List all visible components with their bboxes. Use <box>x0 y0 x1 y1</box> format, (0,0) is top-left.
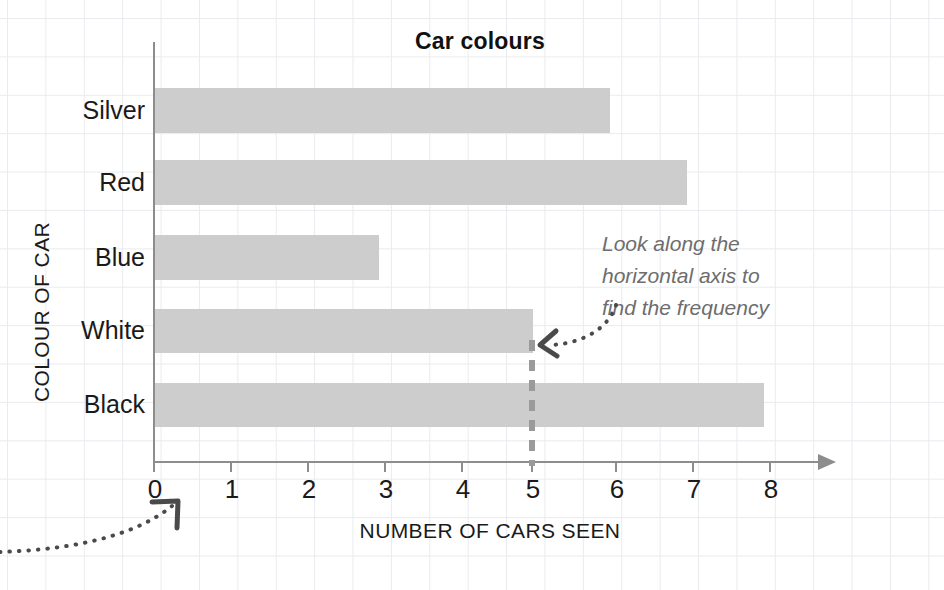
category-label-white: White <box>5 316 145 345</box>
bar-blue <box>155 235 379 280</box>
x-tick-label: 4 <box>443 474 483 505</box>
annotation-line-1: Look along the <box>602 228 932 260</box>
x-tick-label: 7 <box>674 474 714 505</box>
y-axis-title: COLOUR OF CAR <box>30 212 54 412</box>
x-tick-mark <box>769 461 771 472</box>
frequency-annotation: Look along the horizontal axis to find t… <box>602 228 932 324</box>
category-label-silver: Silver <box>5 96 145 125</box>
category-label-black: Black <box>5 390 145 419</box>
x-axis-line <box>153 461 826 463</box>
x-tick-mark <box>692 461 694 472</box>
category-label-red: Red <box>5 168 145 197</box>
x-tick-mark <box>307 461 309 472</box>
category-label-blue: Blue <box>5 243 145 272</box>
x-tick-mark <box>384 461 386 472</box>
x-tick-label: 6 <box>597 474 637 505</box>
x-axis-arrow-icon <box>818 454 836 470</box>
x-tick-label: 8 <box>751 474 791 505</box>
bar-silver <box>155 88 610 133</box>
x-tick-mark <box>153 461 155 472</box>
chart-canvas: Car colours 0 1 2 3 4 5 6 7 8 Silver Red… <box>0 0 944 590</box>
annotation-line-2: horizontal axis to <box>602 260 932 292</box>
x-tick-label: 1 <box>212 474 252 505</box>
bar-red <box>155 160 687 205</box>
x-tick-mark <box>615 461 617 472</box>
x-tick-label: 2 <box>289 474 329 505</box>
frequency-arrow-icon <box>520 300 630 370</box>
origin-arrow-icon <box>0 490 210 560</box>
bar-white <box>155 309 533 353</box>
x-tick-label: 3 <box>366 474 406 505</box>
bar-black <box>155 383 764 427</box>
x-tick-label: 5 <box>513 474 553 505</box>
x-tick-mark <box>461 461 463 472</box>
annotation-line-3: find the frequency <box>602 292 932 324</box>
chart-title: Car colours <box>330 28 630 55</box>
x-axis-title: NUMBER OF CARS SEEN <box>280 519 700 543</box>
x-tick-mark <box>230 461 232 472</box>
